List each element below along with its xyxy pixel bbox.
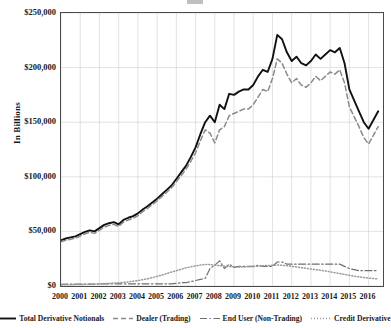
- x-axis-tick: 2003: [110, 292, 126, 301]
- x-axis-tick: 2013: [302, 292, 318, 301]
- y-axis-tick: $100,000: [24, 171, 56, 181]
- x-axis-tick: 2008: [206, 292, 222, 301]
- legend-swatch-solid: [0, 315, 16, 322]
- y-axis-tick: $200,000: [24, 62, 56, 72]
- x-axis-tick: 2010: [244, 292, 260, 301]
- x-axis-tick: 2009: [225, 292, 241, 301]
- legend-swatch-dashed: [113, 315, 133, 322]
- legend-label: Total Derivative Notionals: [19, 314, 104, 323]
- y-axis-tick: $50,000: [28, 225, 56, 235]
- x-axis-tick: 2002: [90, 292, 106, 301]
- legend-label: Credit Derivative: [334, 314, 391, 323]
- x-axis-tick: 2005: [148, 292, 164, 301]
- chart-legend: Total Derivative NotionalsDealer (Tradin…: [0, 310, 387, 326]
- y-axis-tick-labels: $250,000$200,000$150,000$100,000$50,000$…: [0, 12, 56, 287]
- y-axis-tick: $150,000: [24, 116, 56, 126]
- y-axis-tick: $0: [48, 280, 57, 290]
- x-axis-tick: 2011: [264, 292, 280, 301]
- x-axis-tick: 2015: [340, 292, 356, 301]
- y-axis-tick: $250,000: [24, 7, 56, 17]
- series-canvas: [61, 13, 383, 286]
- series-line-total-derivative-notionals: [61, 35, 378, 240]
- legend-swatch-dotted: [311, 315, 331, 322]
- series-line-end-user-non-trading: [61, 261, 378, 284]
- x-axis-tick: 2016: [360, 292, 376, 301]
- series-line-credit-derivative: [61, 264, 378, 285]
- x-axis-tick: 2006: [167, 292, 183, 301]
- x-axis-tick: 2014: [321, 292, 337, 301]
- x-axis-tick: 2000: [52, 292, 68, 301]
- legend-label: End User (Non-Trading): [223, 314, 302, 323]
- x-axis-tick: 2012: [283, 292, 299, 301]
- legend-item[interactable]: Total Derivative Notionals: [0, 314, 104, 323]
- x-axis-tick-labels: 2000200120022003200420052006200720082009…: [60, 292, 384, 306]
- legend-item[interactable]: Dealer (Trading): [113, 314, 190, 323]
- x-axis-tick: 2001: [71, 292, 87, 301]
- legend-label: Dealer (Trading): [136, 314, 190, 323]
- cropped-title-fragment: [187, 0, 203, 4]
- legend-item[interactable]: End User (Non-Trading): [200, 314, 302, 323]
- plot-area: [60, 12, 384, 287]
- x-axis-tick: 2007: [187, 292, 203, 301]
- x-axis-tick: 2004: [129, 292, 145, 301]
- legend-item[interactable]: Credit Derivative: [311, 314, 391, 323]
- legend-swatch-dashdot: [200, 315, 220, 322]
- series-line-dealer-trading: [61, 59, 378, 242]
